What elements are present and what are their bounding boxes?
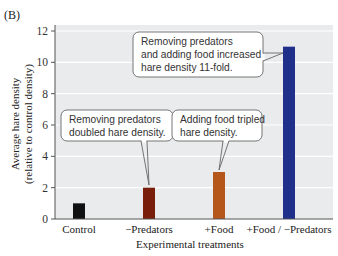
x-tick-label: +Food (205, 223, 234, 235)
bar-chart: 024681012 Control−Predators+Food+Food / … (0, 0, 338, 256)
y-axis-title-line2: (relative to control density) (22, 64, 35, 184)
y-tick-label: 0 (42, 213, 48, 225)
callout-text: doubled hare density. (69, 127, 166, 138)
callout-text: Removing predators (141, 36, 233, 47)
y-axis-title-line1: Average hare density (9, 77, 21, 170)
y-tick-label: 4 (42, 150, 48, 162)
bar (283, 47, 295, 219)
x-tick-label: −Predators (125, 223, 173, 235)
callout-text: Adding food tripled (180, 114, 265, 125)
bar (143, 188, 155, 219)
y-tick-label: 6 (42, 119, 48, 131)
y-tick-label: 10 (37, 56, 49, 68)
y-axis-title: Average hare density (relative to contro… (9, 64, 35, 184)
callout-text: hare density. (180, 127, 238, 138)
callout-text: and adding food increased (141, 49, 261, 60)
y-tick-label: 8 (42, 88, 48, 100)
bar (213, 172, 225, 219)
x-axis-labels: Control−Predators+Food+Food / −Predators (62, 223, 331, 235)
y-tick-label: 12 (37, 25, 49, 37)
x-axis-title: Experimental treatments (136, 238, 244, 250)
y-tick-label: 2 (42, 182, 48, 194)
x-tick-label: +Food / −Predators (246, 223, 331, 235)
callout-text: hare density 11-fold. (141, 62, 233, 73)
bar (73, 203, 85, 219)
y-axis-ticks: 024681012 (37, 25, 56, 225)
callout: Removing predatorsand adding food increa… (133, 32, 283, 77)
callout-text: Removing predators (69, 114, 161, 125)
x-tick-label: Control (62, 223, 96, 235)
